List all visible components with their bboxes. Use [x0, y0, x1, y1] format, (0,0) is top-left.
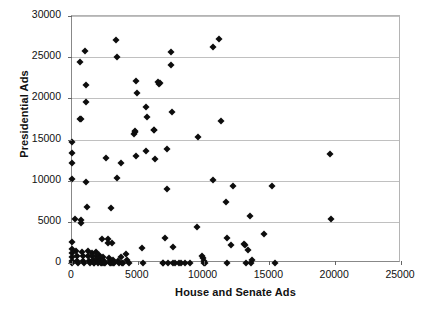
x-axis-title: House and Senate Ads [71, 286, 400, 298]
x-tick-label: 20000 [304, 269, 364, 280]
x-axis-tick-labels: 0500010000150002000025000 [0, 0, 422, 310]
x-tick-label: 10000 [173, 269, 233, 280]
y-axis-title: Presidential Ads [18, 44, 30, 184]
x-tick-label: 25000 [370, 269, 422, 280]
x-tick-label: 5000 [107, 269, 167, 280]
scatter-chart-figure: 050001000015000200002500030000 050001000… [0, 0, 422, 310]
x-tick-label: 15000 [238, 269, 298, 280]
x-tick-label: 0 [41, 269, 101, 280]
